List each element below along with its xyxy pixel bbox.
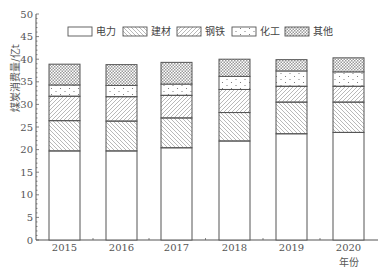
legend-swatch bbox=[285, 27, 309, 36]
bar-segment bbox=[276, 60, 307, 71]
legend-label: 钢铁 bbox=[205, 25, 225, 37]
bar-segment bbox=[333, 132, 364, 240]
legend-item: 建材 bbox=[123, 25, 171, 37]
x-tick-label: 2017 bbox=[164, 242, 189, 253]
bar-segment bbox=[219, 113, 250, 141]
stacked-bar-chart: 煤炭消费量/亿t 0510152025303540455020152016201… bbox=[0, 0, 383, 276]
bar-segment bbox=[161, 84, 192, 95]
y-tick-label: 40 bbox=[20, 54, 33, 65]
legend: 电力建材钢铁化工其他 bbox=[68, 25, 333, 37]
x-axis-title: 年份 bbox=[339, 256, 359, 268]
bar-segment bbox=[49, 151, 80, 240]
bar-segment bbox=[49, 96, 80, 120]
bar-segment bbox=[161, 118, 192, 148]
legend-label: 电力 bbox=[96, 25, 116, 37]
bar-segment bbox=[219, 59, 250, 76]
bar-2016 bbox=[106, 65, 137, 240]
bar-segment bbox=[106, 121, 137, 151]
bar-segment bbox=[333, 102, 364, 132]
bar-2018 bbox=[219, 59, 250, 240]
bar-segment bbox=[106, 85, 137, 96]
x-tick-label: 2019 bbox=[279, 242, 304, 253]
bar-segment bbox=[161, 148, 192, 240]
bar-segment bbox=[219, 141, 250, 240]
legend-item: 其他 bbox=[285, 25, 333, 37]
legend-swatch bbox=[68, 27, 92, 36]
bar-segment bbox=[106, 151, 137, 240]
bar-segment bbox=[276, 86, 307, 102]
y-tick-label: 35 bbox=[20, 76, 33, 87]
bar-segment bbox=[49, 85, 80, 96]
bar-segment bbox=[106, 65, 137, 86]
legend-label: 其他 bbox=[313, 25, 333, 37]
bars bbox=[49, 58, 364, 240]
bar-segment bbox=[333, 72, 364, 86]
legend-label: 建材 bbox=[151, 25, 171, 37]
y-tick-label: 30 bbox=[20, 99, 33, 110]
y-tick-label: 50 bbox=[20, 9, 33, 20]
bar-segment bbox=[161, 62, 192, 84]
legend-label: 化工 bbox=[260, 25, 280, 37]
y-tick-label: 45 bbox=[20, 31, 33, 42]
x-tick-label: 2018 bbox=[222, 242, 247, 253]
y-tick-label: 5 bbox=[27, 212, 33, 223]
bar-segment bbox=[49, 64, 80, 85]
bar-segment bbox=[161, 95, 192, 118]
legend-item: 化工 bbox=[232, 25, 280, 37]
bar-segment bbox=[219, 89, 250, 112]
legend-item: 电力 bbox=[68, 25, 116, 37]
bar-segment bbox=[333, 58, 364, 72]
bar-segment bbox=[106, 97, 137, 121]
legend-item: 钢铁 bbox=[177, 25, 225, 37]
legend-swatch bbox=[123, 27, 147, 36]
bar-2020 bbox=[333, 58, 364, 240]
y-tick-label: 0 bbox=[27, 235, 33, 246]
bar-segment bbox=[49, 121, 80, 151]
x-tick-label: 2015 bbox=[52, 242, 77, 253]
bar-segment bbox=[219, 76, 250, 89]
legend-swatch bbox=[232, 27, 256, 36]
y-axis-title: 煤炭消费量/亿t bbox=[9, 44, 21, 111]
x-tick-label: 2020 bbox=[336, 242, 361, 253]
y-tick-label: 25 bbox=[20, 122, 33, 133]
bar-segment bbox=[276, 71, 307, 86]
bar-segment bbox=[333, 86, 364, 102]
x-tick-label: 2016 bbox=[109, 242, 134, 253]
bar-2019 bbox=[276, 60, 307, 240]
bar-2017 bbox=[161, 62, 192, 240]
y-tick-label: 20 bbox=[20, 144, 33, 155]
y-tick-label: 15 bbox=[20, 167, 33, 178]
legend-swatch bbox=[177, 27, 201, 36]
y-tick-label: 10 bbox=[20, 189, 33, 200]
bar-segment bbox=[276, 102, 307, 134]
bar-2015 bbox=[49, 64, 80, 240]
bar-segment bbox=[276, 134, 307, 240]
